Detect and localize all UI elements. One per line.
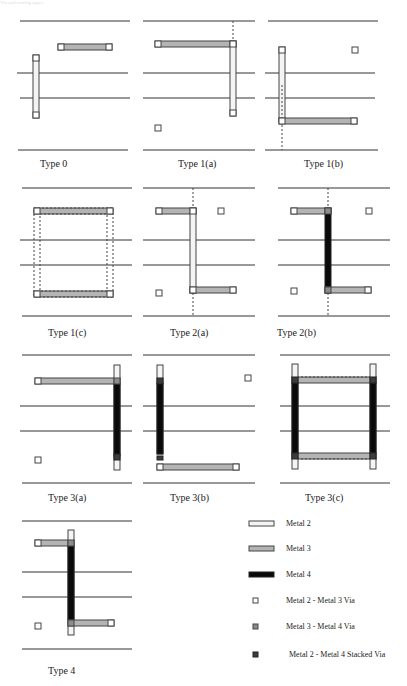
legend-swatch-stacked: [253, 652, 258, 657]
legend-label-stacked: Metal 2 - Metal 4 Stacked Via: [289, 650, 385, 659]
label-type-1a: Type 1(a): [178, 158, 216, 169]
label-type-3b: Type 3(b): [170, 492, 209, 503]
panel-type-2a: [143, 188, 255, 316]
label-type-3c: Type 3(c): [305, 492, 343, 503]
legend-swatch-metal3: [249, 546, 274, 551]
legend-swatch-via34: [253, 624, 258, 629]
legend-swatch-via23: [253, 598, 258, 603]
label-type-4: Type 4: [48, 665, 75, 676]
label-type-2b: Type 2(b): [277, 327, 316, 338]
label-type-2a: Type 2(a): [170, 327, 208, 338]
legend-swatch-metal2: [249, 521, 274, 526]
panel-type-4: [22, 521, 132, 649]
label-type-1c: Type 1(c): [48, 327, 86, 338]
legend-swatch-metal4: [249, 572, 274, 577]
legend: [249, 521, 274, 657]
legend-label-metal3: Metal 3: [286, 544, 311, 553]
label-type-0: Type 0: [40, 158, 67, 169]
legend-label-metal2: Metal 2: [286, 519, 311, 528]
panel-type-3b: [143, 355, 255, 483]
via-types-diagram: .trk { stroke: #333; stroke-width: 1; } …: [0, 0, 407, 686]
panel-type-1b: [265, 21, 378, 150]
panel-type-1a: [143, 21, 255, 150]
legend-label-metal4: Metal 4: [286, 570, 311, 579]
legend-label-via23: Metal 2 - Metal 3 Via: [286, 596, 355, 605]
label-type-1b: Type 1(b): [304, 158, 343, 169]
panel-type-3c: [280, 355, 390, 483]
panel-type-0: [17, 21, 130, 150]
panel-type-2b: [278, 188, 390, 316]
panel-type-3a: [20, 355, 132, 483]
legend-label-via34: Metal 3 - Metal 4 Via: [286, 622, 355, 631]
panel-type-1c: [20, 188, 132, 316]
label-type-3a: Type 3(a): [48, 492, 86, 503]
